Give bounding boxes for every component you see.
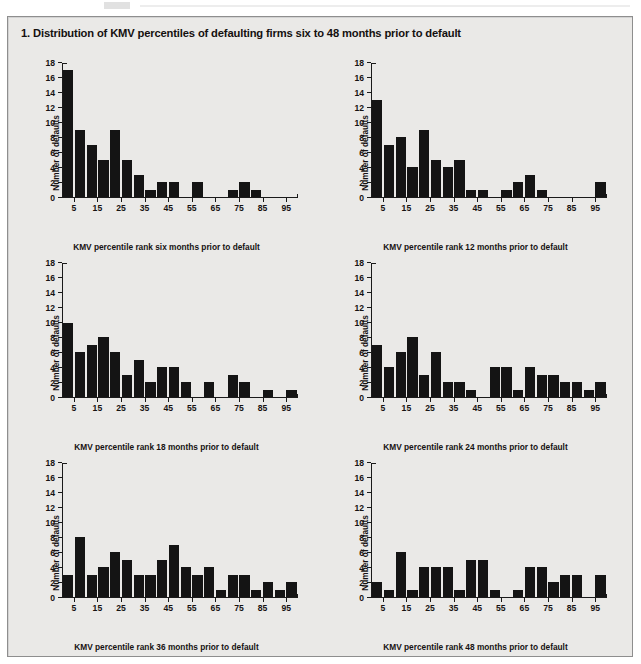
- y-tick-label: 2: [359, 378, 364, 388]
- bar-series: [372, 63, 607, 197]
- bar: [548, 375, 558, 397]
- x-tick-label: 5: [380, 203, 385, 213]
- y-tick-label: 14: [354, 488, 364, 498]
- y-tick: [58, 382, 62, 383]
- y-tick-label: 14: [45, 88, 55, 98]
- x-tick-label: 35: [140, 603, 150, 613]
- plot-area: 0246810121416185152535455565758595: [371, 63, 607, 198]
- bar: [537, 567, 547, 597]
- bar: [63, 575, 73, 597]
- x-tick: [74, 198, 75, 202]
- y-tick: [58, 322, 62, 323]
- x-tick-label: 45: [472, 403, 482, 413]
- x-axis-label: KMV percentile rank six months prior to …: [12, 242, 321, 252]
- y-tick: [367, 507, 371, 508]
- x-tick-label: 95: [590, 403, 600, 413]
- bar: [75, 537, 85, 597]
- bar: [110, 552, 120, 597]
- x-tick: [383, 198, 384, 202]
- bar: [513, 590, 523, 597]
- x-tick: [97, 598, 98, 602]
- bar: [490, 590, 500, 597]
- y-tick: [58, 262, 62, 263]
- x-tick: [454, 398, 455, 402]
- x-tick: [477, 398, 478, 402]
- x-tick: [239, 398, 240, 402]
- y-tick-label: 12: [45, 303, 55, 313]
- y-tick-label: 4: [50, 163, 55, 173]
- y-tick-label: 8: [50, 333, 55, 343]
- x-tick-label: 25: [425, 403, 435, 413]
- y-tick-label: 16: [354, 73, 364, 83]
- bar-series: [63, 63, 298, 197]
- y-tick: [367, 262, 371, 263]
- y-tick-label: 4: [50, 363, 55, 373]
- y-tick-label: 2: [50, 578, 55, 588]
- bar: [372, 582, 382, 597]
- bar: [75, 130, 85, 197]
- y-tick: [367, 167, 371, 168]
- y-tick: [58, 462, 62, 463]
- bar: [396, 352, 406, 397]
- bar: [251, 590, 261, 597]
- x-tick: [263, 598, 264, 602]
- y-tick-label: 18: [354, 58, 364, 68]
- x-tick-label: 15: [93, 603, 103, 613]
- x-tick: [595, 198, 596, 202]
- y-tick-label: 18: [354, 458, 364, 468]
- x-tick-label: 45: [163, 203, 173, 213]
- bar: [595, 575, 605, 597]
- y-tick: [58, 307, 62, 308]
- x-tick: [477, 598, 478, 602]
- bar: [396, 552, 406, 597]
- y-tick: [367, 122, 371, 123]
- y-tick: [367, 92, 371, 93]
- y-tick-label: 18: [45, 458, 55, 468]
- bar: [513, 390, 523, 397]
- y-tick: [58, 122, 62, 123]
- y-tick: [58, 507, 62, 508]
- x-tick: [572, 598, 573, 602]
- x-tick: [215, 398, 216, 402]
- bar: [513, 182, 523, 197]
- y-tick: [367, 367, 371, 368]
- y-tick-label: 8: [50, 533, 55, 543]
- x-tick-label: 15: [402, 603, 412, 613]
- y-tick-label: 6: [359, 148, 364, 158]
- x-tick: [524, 198, 525, 202]
- x-tick: [286, 398, 287, 402]
- bar: [122, 375, 132, 397]
- x-tick: [430, 598, 431, 602]
- y-tick: [58, 337, 62, 338]
- bar: [584, 390, 594, 397]
- y-tick: [367, 352, 371, 353]
- y-tick: [367, 107, 371, 108]
- y-tick: [367, 492, 371, 493]
- y-tick-label: 16: [45, 473, 55, 483]
- x-tick-label: 25: [116, 403, 126, 413]
- x-tick-label: 45: [163, 603, 173, 613]
- x-axis-label: KMV percentile rank 18 months prior to d…: [12, 442, 321, 452]
- bar: [122, 560, 132, 597]
- y-tick-label: 10: [45, 118, 55, 128]
- y-tick: [58, 107, 62, 108]
- y-tick: [58, 77, 62, 78]
- y-tick-label: 4: [359, 563, 364, 573]
- y-tick-label: 14: [45, 488, 55, 498]
- bar: [228, 575, 238, 597]
- y-tick-label: 6: [359, 548, 364, 558]
- x-tick-label: 85: [258, 203, 268, 213]
- x-tick-label: 75: [543, 603, 553, 613]
- bar: [228, 375, 238, 397]
- x-tick-label: 55: [496, 603, 506, 613]
- x-tick: [192, 198, 193, 202]
- x-tick: [524, 598, 525, 602]
- bar: [537, 375, 547, 397]
- y-tick: [58, 167, 62, 168]
- y-tick: [367, 337, 371, 338]
- y-tick: [58, 367, 62, 368]
- bar: [275, 590, 285, 597]
- y-tick: [58, 477, 62, 478]
- x-axis-label: KMV percentile rank 12 months prior to d…: [321, 242, 630, 252]
- y-tick-label: 0: [50, 393, 55, 403]
